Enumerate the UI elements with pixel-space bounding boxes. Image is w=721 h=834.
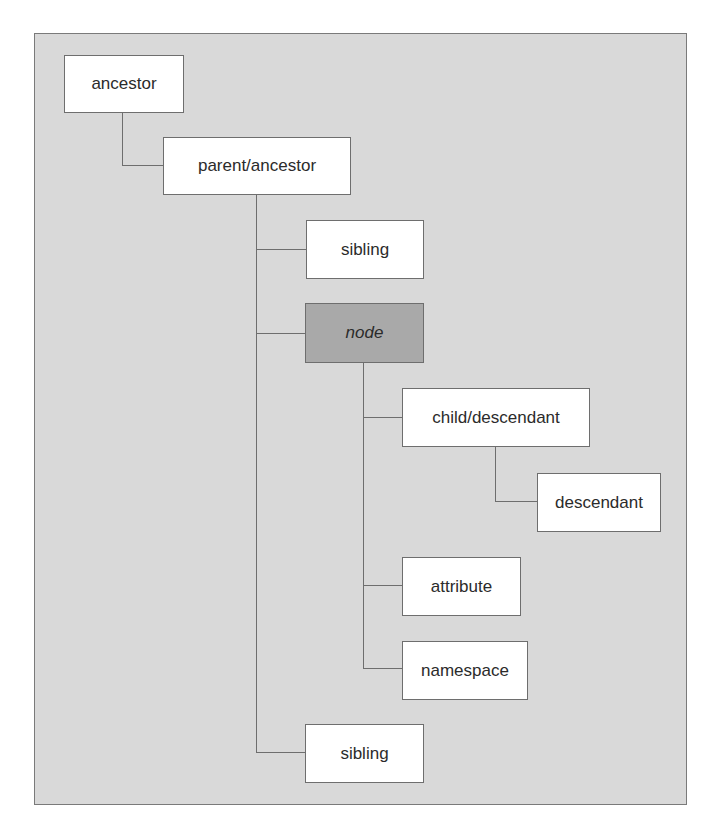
connector-parent-trunk: [256, 194, 257, 753]
node-context: node: [305, 303, 424, 363]
node-label: parent/ancestor: [198, 156, 316, 176]
node-descendant: descendant: [537, 473, 661, 532]
connector-node-namespace: [363, 668, 403, 669]
connector-child-descendant-h: [495, 501, 538, 502]
node-label: node: [346, 323, 384, 343]
connector-child-descendant-v: [495, 446, 496, 502]
node-label: attribute: [431, 577, 492, 597]
node-child: child/descendant: [402, 388, 590, 447]
node-label: child/descendant: [432, 408, 560, 428]
node-attribute: attribute: [402, 557, 521, 616]
connector-node-child: [363, 417, 403, 418]
node-label: sibling: [341, 240, 389, 260]
connector-parent-sibling2: [256, 752, 306, 753]
node-label: sibling: [340, 744, 388, 764]
connector-ancestor-parent-h: [122, 165, 164, 166]
connector-parent-sibling1: [256, 249, 306, 250]
node-label: descendant: [555, 493, 643, 513]
connector-node-attribute: [363, 585, 403, 586]
node-label: namespace: [421, 661, 509, 681]
node-parent: parent/ancestor: [163, 137, 351, 195]
node-label: ancestor: [91, 74, 156, 94]
node-ancestor: ancestor: [64, 55, 184, 113]
connector-ancestor-parent-v: [122, 112, 123, 166]
node-sibling-lower: sibling: [305, 724, 424, 783]
node-sibling-upper: sibling: [306, 220, 424, 279]
connector-node-trunk: [363, 362, 364, 669]
connector-parent-node: [256, 333, 306, 334]
node-namespace: namespace: [402, 641, 528, 700]
